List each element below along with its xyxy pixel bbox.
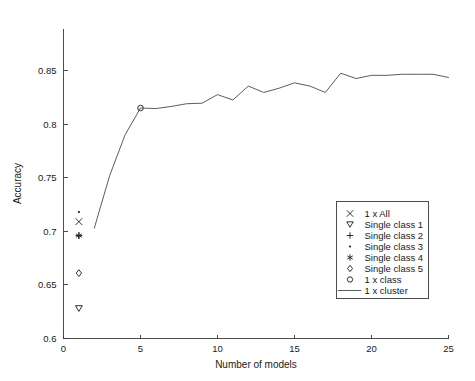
- series-1-x-all: [76, 218, 83, 225]
- legend-item-label: Single class 5: [365, 263, 424, 274]
- marker-triangle-down: [76, 306, 83, 312]
- x-tick-label: 0: [61, 343, 66, 354]
- y-tick-label: 0.75: [38, 172, 57, 183]
- marker-x: [76, 218, 83, 225]
- legend-item-label: Single class 3: [365, 241, 424, 252]
- y-tick-label: 0.6: [43, 333, 56, 344]
- marker-dot: [78, 211, 80, 213]
- marker-dot: [349, 245, 351, 247]
- chart-figure: 0.60.650.70.750.80.850510152025 Number o…: [0, 0, 475, 381]
- x-tick-label: 25: [443, 343, 454, 354]
- x-tick-label: 20: [366, 343, 377, 354]
- x-tick-label: 10: [212, 343, 223, 354]
- legend-item-label: 1 x cluster: [365, 285, 408, 296]
- legend-item-label: 1 x class: [365, 274, 402, 285]
- marker-diamond: [76, 270, 81, 277]
- legend-item-label: 1 x All: [365, 208, 390, 219]
- y-axis-title: Accuracy: [12, 163, 23, 204]
- y-tick-label: 0.8: [43, 119, 56, 130]
- y-tick-label: 0.85: [38, 65, 57, 76]
- x-tick-label: 5: [138, 343, 143, 354]
- legend-item-label: Single class 4: [365, 252, 424, 263]
- series-single-class-1: [76, 306, 83, 312]
- y-tick-label: 0.65: [38, 279, 57, 290]
- series-single-class-5: [76, 270, 81, 277]
- chart-legend[interactable]: 1 x AllSingle class 1Single class 2Singl…: [337, 202, 429, 299]
- legend-item-label: Single class 2: [365, 230, 424, 241]
- accuracy-vs-number-of-models-chart: 0.60.650.70.750.80.850510152025 Number o…: [0, 0, 475, 381]
- y-tick-label: 0.7: [43, 226, 56, 237]
- x-axis-title: Number of models: [215, 359, 297, 370]
- series-single-class-3: [78, 211, 80, 213]
- legend-item-label: Single class 1: [365, 219, 424, 230]
- x-tick-label: 15: [289, 343, 300, 354]
